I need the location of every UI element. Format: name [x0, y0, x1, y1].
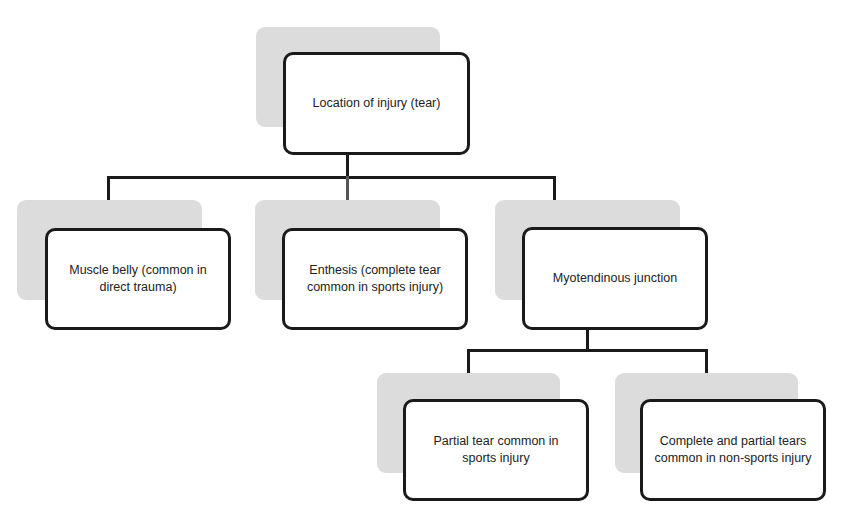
root-node-label: Location of injury (tear): [313, 95, 441, 112]
enthesis-node: Enthesis (complete tear common in sports…: [282, 228, 468, 330]
complete-partial-node: Complete and partial tears common in non…: [640, 399, 826, 501]
connector-root-stem: [346, 155, 349, 178]
partial-tear-node-label: Partial tear common in sports injury: [416, 433, 576, 467]
connector-to-enthesis: [346, 176, 349, 200]
connector-level1-bar: [107, 176, 556, 179]
connector-myotendinous-stem: [586, 330, 589, 351]
myotendinous-node: Myotendinous junction: [522, 227, 708, 330]
myotendinous-node-label: Myotendinous junction: [553, 270, 677, 287]
connector-to-myotendinous: [553, 176, 556, 201]
connector-to-partial-tear: [467, 349, 470, 374]
partial-tear-node: Partial tear common in sports injury: [403, 399, 589, 501]
muscle-belly-node-label: Muscle belly (common in direct trauma): [58, 262, 218, 296]
connector-to-muscle-belly: [107, 176, 110, 201]
enthesis-node-label: Enthesis (complete tear common in sports…: [295, 262, 455, 296]
connector-to-complete-partial: [705, 349, 708, 374]
muscle-belly-node: Muscle belly (common in direct trauma): [45, 228, 231, 330]
complete-partial-node-label: Complete and partial tears common in non…: [653, 433, 813, 467]
connector-level2-bar: [467, 349, 708, 352]
root-node: Location of injury (tear): [283, 52, 470, 155]
